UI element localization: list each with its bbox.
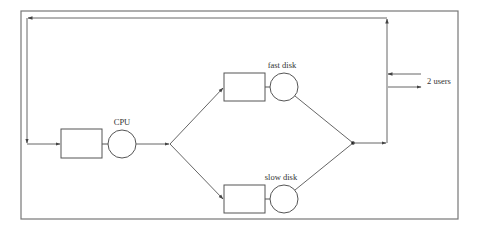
edge-fast-disk-to-join bbox=[295, 96, 353, 143]
fast-disk-server bbox=[270, 73, 298, 101]
fast-disk-queue bbox=[224, 73, 265, 101]
edge-fork-to-slow-disk bbox=[170, 144, 223, 199]
population-label: 2 users bbox=[427, 76, 451, 86]
cpu-station: CPU bbox=[61, 117, 136, 158]
edge-slow-disk-to-join bbox=[295, 143, 353, 190]
fast-disk-label: fast disk bbox=[268, 60, 297, 70]
slow-disk-label: slow disk bbox=[265, 172, 298, 182]
slow-disk-server bbox=[270, 185, 298, 213]
cpu-label: CPU bbox=[114, 117, 131, 127]
cpu-server bbox=[108, 130, 136, 158]
slow-disk-queue bbox=[224, 185, 265, 213]
slow-disk-station: slow disk bbox=[224, 172, 298, 213]
queueing-network-diagram: CPU fast disk slow disk 2 users bbox=[0, 0, 478, 228]
edge-fork-to-fast-disk bbox=[170, 88, 223, 144]
fast-disk-station: fast disk bbox=[224, 60, 298, 101]
cpu-queue bbox=[61, 129, 102, 158]
